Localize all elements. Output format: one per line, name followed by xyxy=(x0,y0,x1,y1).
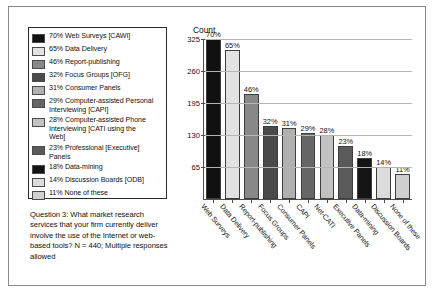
legend-label: 14% Discussion Boards [ODB] xyxy=(49,176,144,185)
legend-swatch-discussion-boards xyxy=(32,178,45,187)
bar-slot: 23% xyxy=(336,39,355,199)
legend-swatch-executive-panels xyxy=(32,146,45,155)
y-tick-label: 260 xyxy=(187,67,200,76)
legend-label: 65% Data Delivery xyxy=(49,45,107,54)
bar[interactable]: 14% xyxy=(376,167,391,199)
bar-slot: 65% xyxy=(223,39,242,199)
gridline xyxy=(204,167,412,168)
y-tick-label: 325 xyxy=(187,35,200,44)
y-tick-mark xyxy=(201,71,205,72)
bar-slot: 29% xyxy=(299,39,318,199)
legend-label: 70% Web Surveys [CAWI] xyxy=(49,32,130,41)
y-tick-label: 65 xyxy=(192,163,200,172)
legend-label: 29% Computer-assisted Personal Interview… xyxy=(49,97,153,114)
bar-value-label: 29% xyxy=(301,124,316,133)
bar-value-label: 28% xyxy=(319,126,334,135)
legend-swatch-focus-groups xyxy=(32,73,45,82)
legend-item: 28% Computer-assisted Phone Interviewing… xyxy=(32,116,163,142)
bar-slot: 31% xyxy=(280,39,299,199)
legend-swatch-web-surveys xyxy=(32,34,45,43)
bar-value-label: 14% xyxy=(376,158,391,167)
legend-item: 65% Data Delivery xyxy=(32,45,163,56)
legend-label: 32% Focus Groups [OFG] xyxy=(49,71,130,80)
x-label-slot: CAPI xyxy=(298,201,317,277)
bar-slot: 14% xyxy=(374,39,393,199)
x-label-slot: Data Delivery xyxy=(222,201,241,277)
x-label-slot: Discussion Boards xyxy=(373,201,392,277)
bar[interactable]: 31% xyxy=(282,128,297,199)
legend-item: 46% Report-publishing xyxy=(32,58,163,69)
legend-swatch-report-publishing xyxy=(32,60,45,69)
x-label-slot: Data-mining xyxy=(354,201,373,277)
figure-frame: 70% Web Surveys [CAWI] 65% Data Delivery… xyxy=(8,6,426,286)
y-tick-mark xyxy=(201,167,205,168)
bar[interactable]: 70% xyxy=(206,39,221,199)
bar-value-label: 46% xyxy=(244,85,259,94)
bar-series: 70%65%46%32%31%29%28%23%18%14%11% xyxy=(204,39,412,199)
bar-value-label: 32% xyxy=(263,117,278,126)
bar-slot: 18% xyxy=(355,39,374,199)
legend-swatch-none-of-these xyxy=(32,191,45,200)
legend-label: 18% Data-mining xyxy=(49,163,103,172)
x-axis-labels: Web SurveysData DeliveryReport-publishin… xyxy=(203,201,411,277)
x-label-slot: None of these xyxy=(392,201,411,277)
legend-item: 70% Web Surveys [CAWI] xyxy=(32,32,163,43)
bar-chart: Count 70%65%46%32%31%29%28%23%18%14%11% … xyxy=(179,25,429,280)
bar[interactable]: 18% xyxy=(357,158,372,199)
bar-value-label: 31% xyxy=(282,119,297,128)
gridline xyxy=(204,135,412,136)
bar-value-label: 18% xyxy=(357,149,372,158)
y-tick-label: 130 xyxy=(187,131,200,140)
x-label-slot: Web Surveys xyxy=(203,201,222,277)
gridline xyxy=(204,103,412,104)
bar-slot: 32% xyxy=(261,39,280,199)
legend-swatch-data-mining xyxy=(32,165,45,174)
legend-swatch-consumer-panels xyxy=(32,86,45,95)
legend-item: 14% Discussion Boards [ODB] xyxy=(32,176,163,187)
legend-label: 28% Computer-assisted Phone Interviewing… xyxy=(49,116,146,142)
bar-value-label: 65% xyxy=(225,41,240,50)
legend-swatch-data-delivery xyxy=(32,47,45,56)
bar[interactable]: 46% xyxy=(244,94,259,199)
bar[interactable]: 29% xyxy=(301,133,316,199)
legend-item: 11% None of these xyxy=(32,189,163,200)
legend-item: 23% Professional [Executive] Panels xyxy=(32,144,163,161)
gridline xyxy=(204,71,412,72)
legend-label: 11% None of these xyxy=(49,189,108,198)
bar[interactable]: 65% xyxy=(225,50,240,199)
gridline xyxy=(204,39,412,40)
x-label-slot: Report-publishing xyxy=(241,201,260,277)
figure-caption: Question 3: What market research service… xyxy=(30,210,172,262)
bar[interactable]: 32% xyxy=(263,126,278,199)
legend-swatch-capi xyxy=(32,99,45,108)
y-tick-mark xyxy=(201,135,205,136)
x-label-slot: Executive Panels xyxy=(335,201,354,277)
figure-container: 70% Web Surveys [CAWI] 65% Data Delivery… xyxy=(0,0,434,292)
legend-item: 18% Data-mining xyxy=(32,163,163,174)
x-label-slot: Focus Groups xyxy=(260,201,279,277)
legend-item: 32% Focus Groups [OFG] xyxy=(32,71,163,82)
x-label-slot: Net-CATI xyxy=(316,201,335,277)
bar-value-label: 70% xyxy=(206,30,221,39)
y-tick-label: 195 xyxy=(187,99,200,108)
plot-area: 70%65%46%32%31%29%28%23%18%14%11% 325260… xyxy=(203,39,412,200)
bar-slot: 70% xyxy=(204,39,223,199)
bar-slot: 11% xyxy=(393,39,412,199)
legend-label: 23% Professional [Executive] Panels xyxy=(49,144,139,161)
bar[interactable]: 23% xyxy=(338,146,353,199)
bar-value-label: 23% xyxy=(338,137,353,146)
legend: 70% Web Surveys [CAWI] 65% Data Delivery… xyxy=(28,27,167,199)
bar-slot: 46% xyxy=(242,39,261,199)
x-label-slot: Consumer Panels xyxy=(279,201,298,277)
x-tick-label: None of these xyxy=(388,202,423,241)
bar-slot: 28% xyxy=(317,39,336,199)
legend-label: 31% Consumer Panels xyxy=(49,84,121,93)
y-tick-mark xyxy=(201,103,205,104)
bar[interactable]: 11% xyxy=(395,174,410,199)
legend-item: 29% Computer-assisted Personal Interview… xyxy=(32,97,163,114)
y-tick-mark xyxy=(201,39,205,40)
legend-item: 31% Consumer Panels xyxy=(32,84,163,95)
legend-label: 46% Report-publishing xyxy=(49,58,120,67)
legend-swatch-cati xyxy=(32,118,45,127)
